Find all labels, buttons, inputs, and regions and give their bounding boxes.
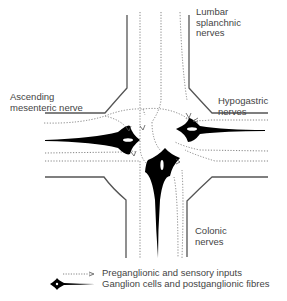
label-lumbar-splanchnic-nerves: Lumbar splanchnic nerves: [196, 7, 241, 39]
label-hypogastric-nerves: Hypogastric nerves: [218, 96, 268, 117]
label-colonic-nerves: Colonic nerves: [195, 226, 227, 247]
legend-symbols: [50, 272, 95, 290]
legend-ganglion-label: Ganglion cells and postganglionic fibres: [102, 279, 269, 290]
ganglion-center: [145, 148, 180, 258]
ganglion-left: [45, 126, 140, 155]
legend-preganglionic-label: Preganglionic and sensory inputs: [102, 268, 242, 279]
ganglion-right: [176, 118, 265, 142]
label-ascending-mesenteric-nerve: Ascending mesenteric nerve: [10, 92, 83, 113]
ganglia-diagram: [0, 0, 287, 301]
